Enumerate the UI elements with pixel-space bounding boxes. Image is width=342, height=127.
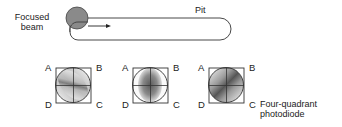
quadrant-label-b: B — [249, 63, 255, 73]
quadrant-label-b: B — [96, 63, 102, 73]
quadrant-label-d: D — [45, 100, 52, 110]
quadrant-label-a: A — [122, 63, 128, 73]
quadrant-label-a: A — [198, 63, 204, 73]
quadrant-label-b: B — [173, 63, 179, 73]
photodiode-left — [52, 64, 93, 105]
photodiode-caption: Four-quadrant photodiode — [260, 99, 317, 119]
focused-beam-spot — [66, 7, 88, 29]
focused-beam-label: Focused beam — [12, 12, 52, 32]
quadrant-label-c: C — [173, 100, 180, 110]
focused-beam-label-line2: beam — [12, 22, 52, 32]
photodiode-center — [133, 68, 169, 104]
quadrant-label-d: D — [122, 100, 129, 110]
arrow-right-icon — [88, 24, 111, 28]
pit-label: Pit — [195, 5, 206, 15]
photodiode-caption-line1: Four-quadrant — [260, 99, 317, 109]
quadrant-label-d: D — [198, 100, 205, 110]
photodiode-right — [209, 68, 245, 104]
quadrant-label-c: C — [249, 100, 256, 110]
quadrant-label-a: A — [45, 63, 51, 73]
focused-beam-label-line1: Focused — [12, 12, 52, 22]
quadrant-label-c: C — [96, 100, 103, 110]
pit-track — [70, 18, 231, 40]
photodiode-caption-line2: photodiode — [260, 109, 317, 119]
